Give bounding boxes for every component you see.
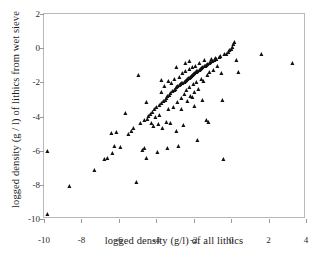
data-point <box>67 183 71 187</box>
y-tick-mark <box>40 185 44 186</box>
data-point <box>235 58 239 62</box>
x-tick-mark <box>156 219 157 223</box>
data-points-layer <box>44 14 304 217</box>
data-point <box>186 99 190 103</box>
data-point <box>174 129 178 133</box>
data-point <box>159 78 163 82</box>
data-point <box>201 79 205 83</box>
data-point <box>159 90 163 94</box>
data-point <box>291 61 295 65</box>
data-point <box>206 120 210 124</box>
data-point <box>193 103 197 107</box>
x-tick-mark <box>44 219 45 223</box>
x-axis-label: logged density (g/l) of all lithics <box>43 235 305 246</box>
data-point <box>135 180 139 184</box>
data-point <box>144 100 148 104</box>
y-tick-mark <box>40 48 44 49</box>
y-tick-mark <box>40 151 44 152</box>
data-point <box>180 107 184 111</box>
x-tick-mark <box>269 219 270 223</box>
data-point <box>183 61 187 65</box>
data-point <box>162 84 166 88</box>
data-point <box>151 124 155 128</box>
data-point <box>190 95 194 99</box>
data-point <box>215 64 219 68</box>
data-point <box>136 73 140 77</box>
data-point <box>145 156 149 160</box>
data-point <box>158 113 162 117</box>
data-point <box>192 90 196 94</box>
data-point <box>221 157 225 161</box>
data-point <box>161 126 165 130</box>
x-tick-mark <box>306 219 307 223</box>
data-point <box>177 144 181 148</box>
data-point <box>175 100 179 104</box>
data-point <box>118 144 122 148</box>
data-point <box>123 111 127 115</box>
x-tick-mark <box>119 219 120 223</box>
y-tick-mark <box>40 117 44 118</box>
x-tick-mark <box>81 219 82 223</box>
y-axis-label: logged density (g / l) of lithics from w… <box>10 3 21 217</box>
data-point <box>200 98 204 102</box>
data-point <box>195 138 199 142</box>
data-point <box>111 151 115 155</box>
data-point <box>233 40 237 44</box>
data-point <box>132 126 136 130</box>
plot-area: -10-8-6-4-2024-10-8-6-4-202 <box>43 13 305 218</box>
data-point <box>188 59 192 63</box>
data-point <box>220 71 224 75</box>
data-point <box>105 156 109 160</box>
data-point <box>156 122 160 126</box>
data-point <box>142 146 146 150</box>
data-point <box>211 68 215 72</box>
data-point <box>236 70 240 74</box>
x-tick-mark <box>194 219 195 223</box>
data-point <box>165 146 169 150</box>
data-point <box>167 79 171 83</box>
data-point <box>114 130 118 134</box>
data-point <box>112 144 116 148</box>
data-point <box>155 150 159 154</box>
x-tick-mark <box>231 219 232 223</box>
data-point <box>46 149 50 153</box>
y-tick-mark <box>40 219 44 220</box>
data-point <box>109 131 113 135</box>
data-point <box>196 86 200 90</box>
data-point <box>179 96 183 100</box>
data-point <box>45 212 49 216</box>
data-point <box>185 88 189 92</box>
data-point <box>171 105 175 109</box>
scatter-plot-figure: -10-8-6-4-2024-10-8-6-4-202 logged densi… <box>0 0 318 256</box>
data-point <box>175 65 179 69</box>
data-point <box>221 98 225 102</box>
data-point <box>183 92 187 96</box>
data-point <box>92 168 96 172</box>
y-tick-mark <box>40 82 44 83</box>
data-point <box>178 74 182 78</box>
data-point <box>173 77 177 81</box>
data-point <box>181 123 185 127</box>
y-tick-mark <box>40 14 44 15</box>
data-point <box>259 52 263 56</box>
data-point <box>194 80 198 84</box>
data-point <box>168 121 172 125</box>
